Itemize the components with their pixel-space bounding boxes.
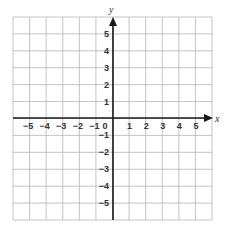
y-tick-label: 5: [104, 29, 109, 39]
axes: x y 0: [13, 4, 220, 220]
x-tick-label: 3: [160, 121, 165, 131]
y-tick-label: −2: [99, 147, 109, 157]
x-axis-label: x: [214, 113, 220, 124]
y-tick-label: 3: [104, 63, 109, 73]
y-tick-label: −5: [99, 198, 109, 208]
y-tick-label: −4: [99, 181, 109, 191]
x-tick-label: 1: [127, 121, 132, 131]
x-tick-label: 4: [177, 121, 182, 131]
y-axis-label: y: [108, 4, 114, 15]
x-tick-label: −3: [56, 121, 66, 131]
x-tick-labels: −5−4−3−2−112345: [23, 121, 198, 131]
y-tick-label: −3: [99, 164, 109, 174]
y-tick-label: 4: [104, 46, 109, 56]
y-tick-label: 2: [104, 80, 109, 90]
x-tick-label: 2: [144, 121, 149, 131]
x-tick-label: −5: [23, 121, 33, 131]
coordinate-plane: x y 0 −5−4−3−2−112345 54321−1−2−3−4−5: [0, 0, 232, 233]
y-tick-label: 1: [104, 97, 109, 107]
x-tick-label: 5: [193, 121, 198, 131]
y-axis-arrow-icon: [109, 17, 117, 26]
y-tick-label: −1: [99, 130, 109, 140]
x-tick-label: −4: [40, 121, 50, 131]
x-tick-label: −2: [73, 121, 83, 131]
